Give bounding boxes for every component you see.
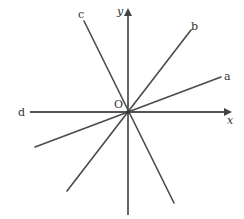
x-axis-label: x (227, 114, 234, 127)
origin-label: O (114, 98, 123, 111)
coordinate-diagram: O x y a b c d (0, 0, 244, 219)
line-a-label: a (224, 70, 231, 83)
line-c-label: c (78, 8, 84, 21)
line-d-label: d (18, 106, 25, 119)
line-b-label: b (191, 20, 198, 33)
y-axis-label: y (116, 5, 124, 18)
origin-point (126, 110, 130, 114)
